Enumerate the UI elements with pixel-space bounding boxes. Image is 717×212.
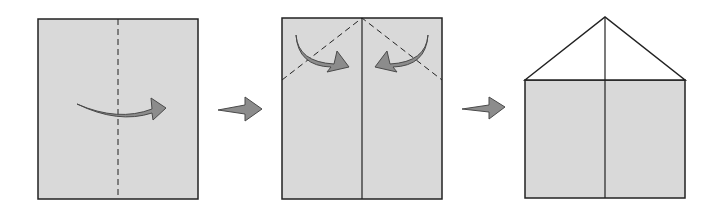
step-2 — [282, 18, 442, 199]
next-step-arrow-icon — [218, 97, 262, 121]
origami-diagram — [0, 0, 717, 212]
step-3 — [525, 17, 685, 198]
step-1 — [38, 19, 198, 199]
next-step-arrow-icon — [462, 97, 505, 119]
